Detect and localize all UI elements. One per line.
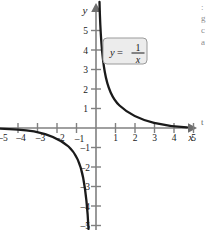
x-tick-label: 5 xyxy=(191,133,196,143)
y-tick-label: –2 xyxy=(80,163,91,173)
y-tick-label: 4 xyxy=(83,46,88,56)
curve-branch-positive xyxy=(100,2,188,127)
equation-callout: y = 1 x xyxy=(103,38,147,65)
axis-lines xyxy=(0,3,197,230)
y-tick-label: –3 xyxy=(80,182,91,192)
y-tick-label: –1 xyxy=(80,143,91,153)
callout-equals: = xyxy=(117,47,123,58)
y-tick-label: –5 xyxy=(80,221,91,230)
y-axis-label: y xyxy=(82,4,88,16)
x-tick-label: –4 xyxy=(15,133,26,143)
x-tick-label: 4 xyxy=(172,133,177,143)
y-tick-label: –4 xyxy=(80,202,91,212)
margin-text-line: a xyxy=(201,38,205,47)
y-tick-label: 1 xyxy=(83,104,88,114)
x-tick-label: –3 xyxy=(35,133,46,143)
hyperbola-curve xyxy=(0,2,187,229)
x-tick-label: 3 xyxy=(152,133,157,143)
margin-text-line: : xyxy=(201,3,204,12)
x-tick-label: –2 xyxy=(54,133,65,143)
margin-text-line: g xyxy=(201,14,206,23)
y-tick-label: 2 xyxy=(83,85,88,95)
y-tick-label: 3 xyxy=(83,65,88,75)
margin-text-line: t xyxy=(201,118,204,127)
margin-text-column: : g c a t xyxy=(199,0,217,230)
x-tick-labels: –5 –4 –3 –2 –1 1 2 3 4 5 xyxy=(0,133,196,144)
graph-figure: y x –5 –4 –3 –2 –1 1 2 3 4 5 5 4 3 2 1 –… xyxy=(0,0,217,230)
x-tick-label: 2 xyxy=(133,133,138,143)
callout-lhs: y xyxy=(109,47,115,58)
y-tick-label: 5 xyxy=(83,26,88,36)
coordinate-plane: y x –5 –4 –3 –2 –1 1 2 3 4 5 5 4 3 2 1 –… xyxy=(0,0,217,230)
margin-text-line: c xyxy=(201,26,205,35)
x-tick-label: 1 xyxy=(113,133,118,143)
x-tick-label: –5 xyxy=(0,133,8,143)
callout-denominator: x xyxy=(135,54,141,65)
callout-numerator: 1 xyxy=(136,42,141,53)
